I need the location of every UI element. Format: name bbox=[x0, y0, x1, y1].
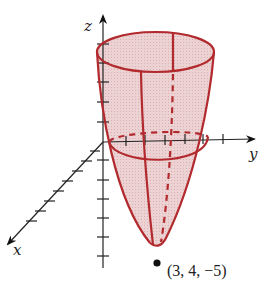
x-axis-ticks bbox=[26, 151, 100, 221]
z-axis-label: z bbox=[84, 19, 92, 34]
x-axis bbox=[8, 142, 103, 244]
point-marker bbox=[153, 259, 160, 266]
diagram-canvas bbox=[0, 0, 271, 285]
point-label: (3, 4, −5) bbox=[167, 263, 227, 279]
x-axis-label: x bbox=[13, 243, 21, 258]
y-axis-label: y bbox=[249, 147, 257, 162]
paraboloid-diagram: z y x (3, 4, −5) bbox=[0, 0, 271, 285]
